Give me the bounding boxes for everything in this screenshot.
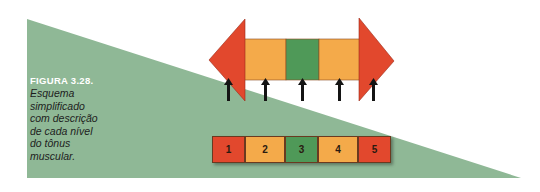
caption-line: com descrição bbox=[30, 112, 150, 125]
figure-caption: FIGURA 3.28. Esquema simplificado com de… bbox=[30, 75, 150, 163]
caption-line: simplificado bbox=[30, 100, 150, 113]
scale-box-1: 1 bbox=[212, 136, 245, 163]
caption-line: de cada nível bbox=[30, 125, 150, 138]
caption-line: muscular. bbox=[30, 150, 150, 163]
bar-segment-green bbox=[286, 39, 319, 80]
up-arrow-icon bbox=[335, 78, 344, 101]
up-arrow-icon bbox=[298, 78, 307, 101]
scale-box-2: 2 bbox=[245, 136, 285, 163]
scale-box-4: 4 bbox=[318, 136, 358, 163]
tonus-scale: 1 2 3 4 5 bbox=[212, 136, 391, 163]
bar-segment-orange-left bbox=[244, 39, 286, 80]
caption-line: do tônus bbox=[30, 137, 150, 150]
right-arrowhead bbox=[359, 18, 394, 101]
bar-segment-orange-right bbox=[319, 39, 360, 80]
caption-line: Esquema bbox=[30, 87, 150, 100]
scale-box-5: 5 bbox=[358, 136, 391, 163]
figure-title: FIGURA 3.28. bbox=[30, 75, 150, 87]
scale-box-3: 3 bbox=[285, 136, 318, 163]
